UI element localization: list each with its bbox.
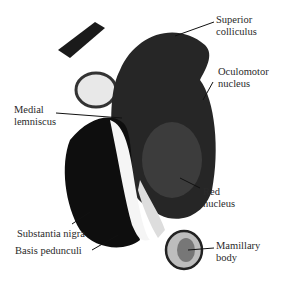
label-oculomotor-nucleus: Oculomotor nucleus bbox=[218, 66, 269, 90]
label-substantia-nigra: Substantia nigra bbox=[17, 228, 85, 240]
label-superior-colliculus: Superior colliculus bbox=[216, 14, 257, 38]
label-basis-pedunculi: Basis pedunculi bbox=[15, 245, 82, 257]
anatomy-figure: Superior colliculus Oculomotor nucleus M… bbox=[0, 0, 288, 292]
label-medial-lemniscus: Medial lemniscus bbox=[14, 104, 56, 128]
label-mamillary-body: Mamillary body bbox=[216, 240, 260, 264]
label-red-nucleus: Red nucleus bbox=[203, 186, 235, 210]
